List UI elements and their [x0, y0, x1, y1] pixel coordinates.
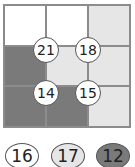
puzzle-grid [3, 4, 131, 128]
clue-circle: 15 [75, 80, 101, 106]
clue-circle: 21 [33, 37, 59, 63]
clue-circle: 14 [33, 80, 59, 106]
answer-option-light[interactable]: 17 [51, 143, 85, 167]
clue-circle: 18 [75, 37, 101, 63]
answer-option-white[interactable]: 16 [5, 143, 39, 167]
answer-option-dark[interactable]: 12 [96, 143, 130, 167]
